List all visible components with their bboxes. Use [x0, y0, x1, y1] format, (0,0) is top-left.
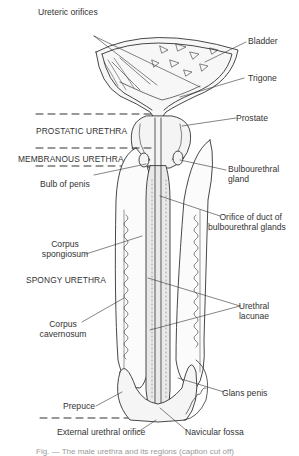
label-prepuce: Prepuce: [63, 401, 95, 411]
label-orifice-of-duct-line1: Orifice of duct of: [208, 212, 282, 222]
label-corpus-cavernosum: Corpus cavernosum: [38, 319, 88, 339]
region-prostatic-urethra: PROSTATIC URETHRA: [36, 126, 127, 136]
label-prostate: Prostate: [236, 113, 268, 123]
figure-caption-text: Fig. — The male urethra and its regions …: [0, 447, 299, 456]
label-urethral-lacunae-line1: Urethral: [232, 301, 276, 311]
corpus-spongiosum: [146, 166, 170, 420]
label-ureteric-orifices: Ureteric orifices: [38, 7, 98, 17]
label-bulb-of-penis: Bulb of penis: [40, 179, 90, 189]
label-bulbourethral-gland-line1: Bulbourethral: [228, 164, 279, 174]
label-bulbourethral-gland: Bulbourethral gland: [228, 164, 279, 184]
region-membranous-urethra: MEMBRANOUS URETHRA: [18, 154, 124, 164]
label-corpus-spongiosum: Corpus spongiosum: [40, 239, 90, 259]
label-urethral-lacunae-line2: lacunae: [232, 311, 276, 321]
label-external-urethral-orifice: External urethral orifice: [57, 427, 145, 437]
label-corpus-spongiosum-line1: Corpus: [40, 239, 90, 249]
label-corpus-cavernosum-line1: Corpus: [38, 319, 88, 329]
label-orifice-of-duct-line2: bulbourethral glands: [208, 222, 282, 232]
label-navicular-fossa: Navicular fossa: [185, 427, 244, 437]
label-corpus-cavernosum-line2: cavernosum: [38, 329, 88, 339]
label-urethral-lacunae: Urethral lacunae: [232, 301, 276, 321]
anatomy-figure: Ureteric orifices Bladder Trigone Prosta…: [0, 0, 299, 456]
label-corpus-spongiosum-line2: spongiosum: [40, 249, 90, 259]
label-glans-penis: Glans penis: [222, 388, 267, 398]
label-trigone: Trigone: [248, 73, 277, 83]
leader-prepuce: [96, 392, 122, 406]
figure-caption: Fig. — The male urethra and its regions …: [0, 447, 299, 456]
corpus-cavernosum-right: [176, 140, 213, 388]
label-orifice-of-duct: Orifice of duct of bulbourethral glands: [208, 212, 282, 232]
label-bladder: Bladder: [248, 36, 278, 46]
label-bulbourethral-gland-line2: gland: [228, 174, 279, 184]
region-spongy-urethra: SPONGY URETHRA: [26, 275, 106, 285]
leader-prostate: [182, 118, 236, 126]
corpus-cavernosum-left: [115, 148, 150, 388]
